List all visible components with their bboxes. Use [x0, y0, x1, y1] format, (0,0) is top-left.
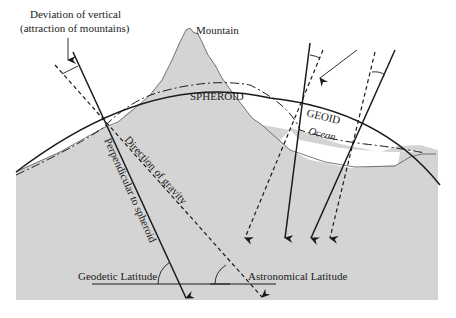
deviation-pointer-right	[320, 50, 357, 78]
mountain-label: Mountain	[196, 24, 239, 36]
geoid-label: GEOID	[306, 106, 342, 126]
deviation-label-line2: (attraction of mountains)	[20, 22, 130, 35]
geodetic-latitude-label: Geodetic Latitude	[78, 270, 157, 282]
astronomical-latitude-label: Astronomical Latitude	[248, 270, 347, 282]
deviation-angle-arc	[62, 66, 78, 74]
deviation-label-line1: Deviation of vertical	[30, 8, 121, 20]
geoid-spheroid-diagram: Deviation of vertical (attraction of mou…	[0, 0, 456, 318]
spheroid-label: SPHEROID	[190, 90, 244, 102]
deviation-angle-arc-right-2	[372, 72, 385, 75]
deviation-angle-arc-right-1	[310, 55, 320, 58]
